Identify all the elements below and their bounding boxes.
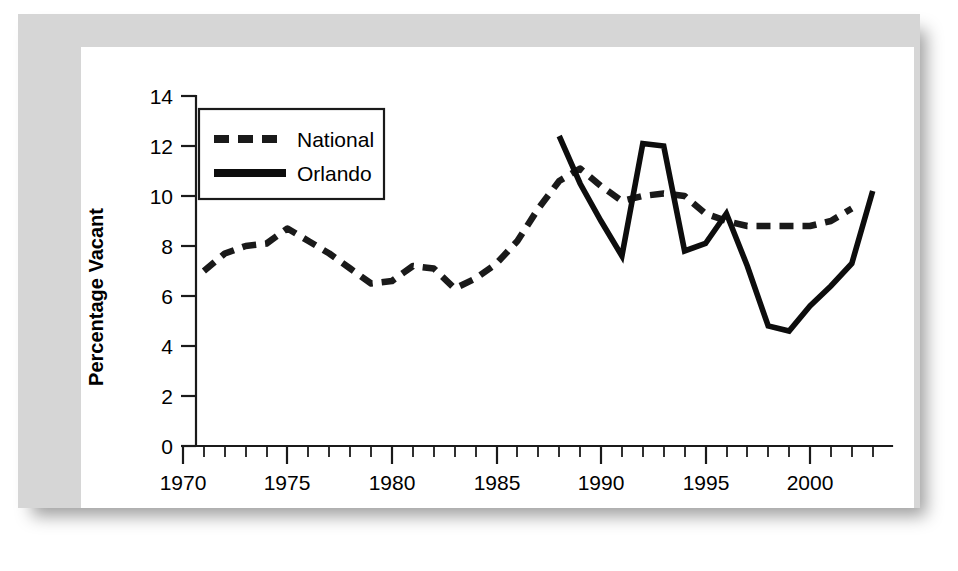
y-tick-label: 12 bbox=[150, 135, 173, 158]
x-tick-label: 1980 bbox=[369, 471, 416, 494]
x-tick-label: 1995 bbox=[683, 471, 730, 494]
x-tick-label: 2000 bbox=[787, 471, 834, 494]
figure-page: Percentage Vacant 14 12 10 8 6 4 2 0 bbox=[0, 0, 958, 571]
y-tick-labels: 14 12 10 8 6 4 2 0 bbox=[150, 85, 174, 458]
x-tick-label: 1990 bbox=[578, 471, 625, 494]
legend-box bbox=[199, 109, 384, 199]
chart-panel: Percentage Vacant 14 12 10 8 6 4 2 0 bbox=[81, 47, 914, 508]
x-tick-label: 1985 bbox=[474, 471, 521, 494]
y-tick-label: 0 bbox=[161, 435, 173, 458]
legend-label-orlando: Orlando bbox=[297, 162, 372, 185]
x-tick-label: 1970 bbox=[160, 471, 207, 494]
y-tick-label: 2 bbox=[161, 385, 173, 408]
y-tick-label: 6 bbox=[161, 285, 173, 308]
figure-frame: Percentage Vacant 14 12 10 8 6 4 2 0 bbox=[18, 14, 920, 508]
x-axis-ticks bbox=[183, 446, 873, 464]
y-tick-label: 4 bbox=[161, 335, 173, 358]
x-tick-labels: 1970 1975 1980 1985 1990 1995 2000 bbox=[160, 471, 834, 494]
line-chart: Percentage Vacant 14 12 10 8 6 4 2 0 bbox=[81, 47, 914, 508]
y-tick-label: 14 bbox=[150, 85, 174, 108]
y-axis-ticks bbox=[181, 96, 196, 446]
y-tick-label: 10 bbox=[150, 185, 173, 208]
y-tick-label: 8 bbox=[161, 235, 173, 258]
legend-label-national: National bbox=[297, 128, 374, 151]
x-tick-label: 1975 bbox=[264, 471, 311, 494]
series-line-orlando bbox=[559, 136, 873, 331]
chart-legend: National Orlando bbox=[199, 109, 384, 199]
y-axis-title: Percentage Vacant bbox=[85, 208, 107, 386]
